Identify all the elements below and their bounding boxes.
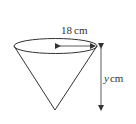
cone-left-side	[14, 46, 55, 110]
radius-label: 18cm	[61, 24, 88, 36]
height-label: ycm	[103, 72, 124, 84]
cone-right-side	[55, 46, 97, 110]
cone-diagram: 18cm ycm	[0, 0, 136, 124]
